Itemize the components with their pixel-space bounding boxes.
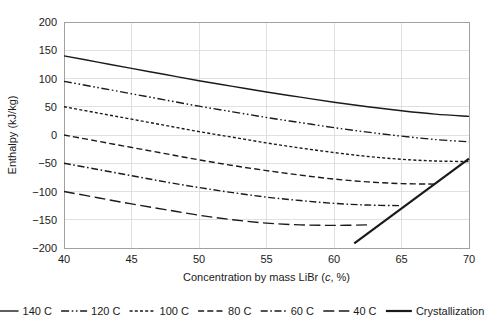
x-tick-label: 60 <box>328 253 340 265</box>
series-line-crystallization <box>354 159 469 244</box>
y-tick-label: −100 <box>32 186 57 198</box>
y-tick-label: −200 <box>32 242 57 254</box>
legend-label-60-c[interactable]: 60 C <box>291 305 314 317</box>
x-axis-tick-labels: 40455055606570 <box>58 253 475 265</box>
x-axis-title: Concentration by mass LiBr (c, %) <box>183 271 350 283</box>
legend-label-80-c[interactable]: 80 C <box>228 305 251 317</box>
y-tick-label: 150 <box>39 44 57 56</box>
y-tick-label: −50 <box>38 157 57 169</box>
y-tick-label: 0 <box>51 129 57 141</box>
legend: 140 C120 C100 C80 C60 C40 CCrystallizati… <box>0 305 484 317</box>
legend-label-100-c[interactable]: 100 C <box>160 305 189 317</box>
legend-label-120-c[interactable]: 120 C <box>91 305 120 317</box>
y-axis-tick-labels: −200−150−100−50050100150200 <box>32 16 57 254</box>
y-tick-label: 200 <box>39 16 57 28</box>
legend-label-40-c[interactable]: 40 C <box>353 305 376 317</box>
x-tick-label: 65 <box>395 253 407 265</box>
series-line-80-c <box>64 135 435 184</box>
series-line-40-c <box>64 192 368 226</box>
series-line-60-c <box>64 163 402 205</box>
x-tick-label: 40 <box>58 253 70 265</box>
x-tick-label: 70 <box>463 253 475 265</box>
x-tick-label: 55 <box>260 253 272 265</box>
y-axis-title: Enthalpy (kJ/kg) <box>6 96 18 175</box>
y-tick-label: −150 <box>32 214 57 226</box>
gridlines-layer <box>64 22 469 248</box>
y-tick-label: 50 <box>45 101 57 113</box>
x-tick-label: 50 <box>193 253 205 265</box>
legend-label-140-c[interactable]: 140 C <box>23 305 52 317</box>
enthalpy-concentration-chart: 40455055606570 −200−150−100−500501001502… <box>0 0 497 326</box>
legend-label-crystallization[interactable]: Crystallization <box>416 305 484 317</box>
x-tick-label: 45 <box>125 253 137 265</box>
y-tick-label: 100 <box>39 73 57 85</box>
chart-svg: 40455055606570 −200−150−100−500501001502… <box>0 0 497 326</box>
